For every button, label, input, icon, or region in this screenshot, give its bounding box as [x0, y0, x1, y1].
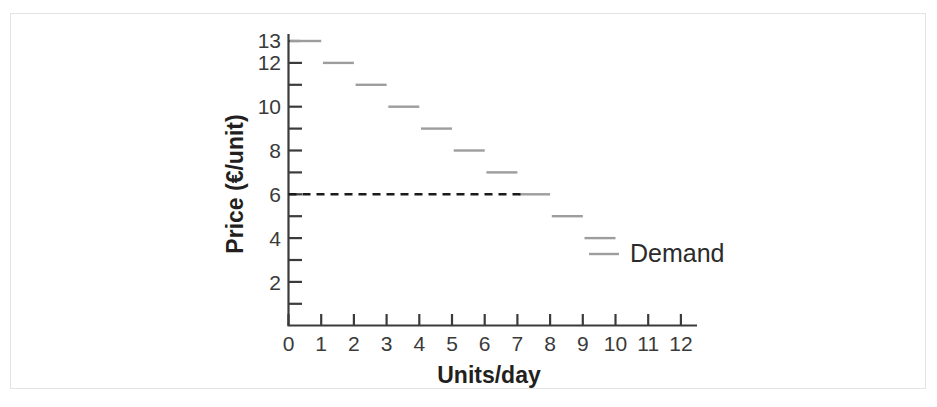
x-tick-label-12: 12 — [669, 332, 692, 355]
x-tick-labels: 0 1 2 3 4 5 6 7 8 9 10 11 12 — [283, 332, 693, 355]
x-axis-title: Units/day — [437, 362, 541, 388]
y-tick-label-13: 13 — [258, 29, 281, 52]
axis-lines — [288, 34, 698, 326]
demand-step-chart: 13 12 10 8 6 4 2 0 1 2 3 4 5 6 7 8 9 10 … — [11, 14, 927, 390]
x-tick-label-8: 8 — [544, 332, 556, 355]
y-tick-label-8: 8 — [269, 139, 281, 162]
x-tick-label-0: 0 — [283, 332, 295, 355]
y-tick-label-12: 12 — [258, 51, 281, 74]
demand-series — [290, 41, 616, 238]
x-tick-label-7: 7 — [512, 332, 524, 355]
x-tick-label-9: 9 — [577, 332, 589, 355]
x-tick-label-2: 2 — [348, 332, 360, 355]
x-axis-ticks — [289, 314, 681, 326]
y-tick-label-4: 4 — [269, 227, 281, 250]
figure-frame: 13 12 10 8 6 4 2 0 1 2 3 4 5 6 7 8 9 10 … — [10, 13, 926, 389]
legend-label-demand: Demand — [630, 239, 725, 267]
x-tick-label-6: 6 — [479, 332, 491, 355]
chart-legend: Demand — [589, 239, 725, 267]
x-tick-label-11: 11 — [637, 332, 659, 355]
x-tick-label-1: 1 — [315, 332, 327, 355]
x-tick-label-4: 4 — [413, 332, 425, 355]
x-tick-label-10: 10 — [604, 332, 627, 355]
y-axis-title: Price (€/unit) — [222, 114, 248, 253]
y-axis-ticks — [289, 41, 303, 304]
y-tick-label-10: 10 — [258, 95, 281, 118]
y-tick-label-2: 2 — [269, 271, 281, 294]
y-tick-labels: 13 12 10 8 6 4 2 — [258, 29, 282, 294]
x-tick-label-5: 5 — [446, 332, 458, 355]
x-tick-label-3: 3 — [381, 332, 393, 355]
y-tick-label-6: 6 — [269, 183, 281, 206]
